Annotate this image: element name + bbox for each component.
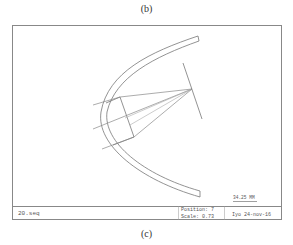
drawing-frame bbox=[13, 26, 282, 220]
footer-position: Position: 7 bbox=[181, 207, 214, 213]
reflector-inner-curve bbox=[107, 41, 200, 191]
lens-block bbox=[106, 97, 134, 145]
footer-scale: Scale: 0.73 bbox=[181, 214, 214, 220]
image-plane bbox=[183, 63, 202, 119]
figure-caption-c: (c) bbox=[0, 228, 293, 239]
ray-top-in bbox=[93, 97, 120, 105]
footer-user-date: Iyo 24-nov-16 bbox=[232, 212, 271, 218]
footer-filename: 20.seq bbox=[18, 210, 40, 217]
optical-layout-drawing: 34.25 MM 20.seq Position: 7 Scale: 0.73 … bbox=[0, 0, 293, 245]
reflector-outer-curve bbox=[101, 36, 200, 197]
scale-bar-label: 34.25 MM bbox=[233, 195, 255, 200]
reflector bbox=[101, 36, 200, 197]
reflector-top-cap bbox=[198, 36, 199, 41]
ray-bottom-out bbox=[134, 89, 192, 137]
